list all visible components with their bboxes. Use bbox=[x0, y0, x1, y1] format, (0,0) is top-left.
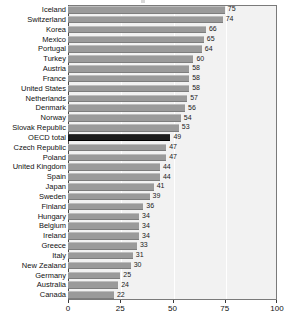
axis-tick-mark bbox=[120, 300, 121, 303]
bar-value-label: 58 bbox=[192, 83, 200, 93]
bar bbox=[68, 252, 133, 260]
bar bbox=[68, 36, 204, 44]
axis-tick-label: 100 bbox=[270, 304, 283, 314]
category-label: Turkey bbox=[0, 54, 66, 64]
bar-value-label: 39 bbox=[153, 191, 161, 201]
bar-value-label: 47 bbox=[169, 152, 177, 162]
category-label: Hungary bbox=[0, 212, 66, 222]
bar bbox=[68, 104, 185, 112]
bar-value-label: 74 bbox=[226, 14, 234, 24]
bar-value-label: 34 bbox=[142, 221, 150, 231]
bar-value-label: 53 bbox=[182, 122, 190, 132]
bar-row: 39 bbox=[68, 192, 277, 202]
bar-value-label: 34 bbox=[142, 211, 150, 221]
bar bbox=[68, 114, 181, 122]
bar bbox=[68, 272, 120, 280]
bar-row: 24 bbox=[68, 280, 277, 290]
bar-value-label: 56 bbox=[188, 103, 196, 113]
category-label: United States bbox=[0, 84, 66, 94]
scan-artifact bbox=[141, 0, 145, 3]
bar-row: 30 bbox=[68, 261, 277, 271]
category-label: United Kingdom bbox=[0, 162, 66, 172]
axis-tick-mark bbox=[276, 300, 277, 303]
category-label: Switzerland bbox=[0, 15, 66, 25]
bar-row: 54 bbox=[68, 113, 277, 123]
bar-value-label: 31 bbox=[136, 250, 144, 260]
bar-value-label: 60 bbox=[196, 54, 204, 64]
bar-row: 25 bbox=[68, 271, 277, 281]
category-label: Spain bbox=[0, 172, 66, 182]
bar-row: 60 bbox=[68, 54, 277, 64]
bar-value-label: 66 bbox=[209, 24, 217, 34]
bar bbox=[68, 262, 131, 270]
bar bbox=[68, 134, 170, 142]
bar-row: 44 bbox=[68, 172, 277, 182]
bar-row: 34 bbox=[68, 212, 277, 222]
bar bbox=[68, 124, 179, 132]
bar bbox=[68, 26, 206, 34]
bar-value-label: 36 bbox=[146, 201, 154, 211]
bar-chart: IcelandSwitzerlandKoreaMexicoPortugalTur… bbox=[0, 0, 284, 332]
category-label: Mexico bbox=[0, 35, 66, 45]
bar bbox=[68, 16, 223, 24]
bar bbox=[68, 232, 139, 240]
bar-row: 41 bbox=[68, 182, 277, 192]
bar-value-label: 47 bbox=[169, 142, 177, 152]
category-label: Iceland bbox=[0, 5, 66, 15]
bar-row: 34 bbox=[68, 221, 277, 231]
bar-row: 75 bbox=[68, 5, 277, 15]
bar bbox=[68, 154, 166, 162]
bar bbox=[68, 45, 202, 53]
bar-value-label: 30 bbox=[134, 260, 142, 270]
category-label: Belgium bbox=[0, 221, 66, 231]
category-label: Slovak Republic bbox=[0, 123, 66, 133]
bar bbox=[68, 144, 166, 152]
bar-row: 36 bbox=[68, 202, 277, 212]
bar-value-label: 25 bbox=[123, 270, 131, 280]
bar-row: 56 bbox=[68, 103, 277, 113]
category-label: Italy bbox=[0, 251, 66, 261]
bar-row: 66 bbox=[68, 25, 277, 35]
category-label: Canada bbox=[0, 290, 66, 300]
bar-value-label: 64 bbox=[205, 44, 213, 54]
category-label: Greece bbox=[0, 241, 66, 251]
bar bbox=[68, 222, 139, 230]
bar-row: 33 bbox=[68, 241, 277, 251]
category-label: Austria bbox=[0, 64, 66, 74]
bar-row: 44 bbox=[68, 162, 277, 172]
bar bbox=[68, 193, 150, 201]
bar-value-label: 58 bbox=[192, 73, 200, 83]
bar-value-label: 44 bbox=[163, 172, 171, 182]
bar-value-label: 65 bbox=[207, 34, 215, 44]
axis-tick-label: 25 bbox=[116, 304, 125, 314]
axis-tick-mark bbox=[173, 300, 174, 303]
bar-value-label: 44 bbox=[163, 162, 171, 172]
category-label: Sweden bbox=[0, 192, 66, 202]
bar-value-label: 34 bbox=[142, 231, 150, 241]
bar-row: 58 bbox=[68, 64, 277, 74]
category-label: OECD total bbox=[0, 133, 66, 143]
category-label: Netherlands bbox=[0, 94, 66, 104]
category-label: Czech Republic bbox=[0, 143, 66, 153]
bars-layer: 7574666564605858585756545349474744444139… bbox=[68, 5, 277, 300]
bar bbox=[68, 173, 160, 181]
category-label: Norway bbox=[0, 113, 66, 123]
bar bbox=[68, 55, 193, 63]
category-axis-labels: IcelandSwitzerlandKoreaMexicoPortugalTur… bbox=[0, 5, 66, 300]
bar-value-label: 75 bbox=[228, 4, 236, 14]
axis-tick-label: 50 bbox=[168, 304, 177, 314]
axis-tick-mark bbox=[68, 300, 69, 303]
bar-value-label: 57 bbox=[190, 93, 198, 103]
bar-value-label: 33 bbox=[140, 240, 148, 250]
bar bbox=[68, 183, 154, 191]
value-axis: 0255075100 bbox=[68, 300, 277, 330]
bar bbox=[68, 281, 118, 289]
axis-tick-label: 75 bbox=[220, 304, 229, 314]
bar bbox=[68, 95, 187, 103]
category-label: Japan bbox=[0, 182, 66, 192]
bar bbox=[68, 6, 225, 14]
bar-value-label: 41 bbox=[157, 181, 165, 191]
axis-tick-label: 0 bbox=[66, 304, 70, 314]
bar-row: 22 bbox=[68, 290, 277, 300]
bar bbox=[68, 85, 189, 93]
